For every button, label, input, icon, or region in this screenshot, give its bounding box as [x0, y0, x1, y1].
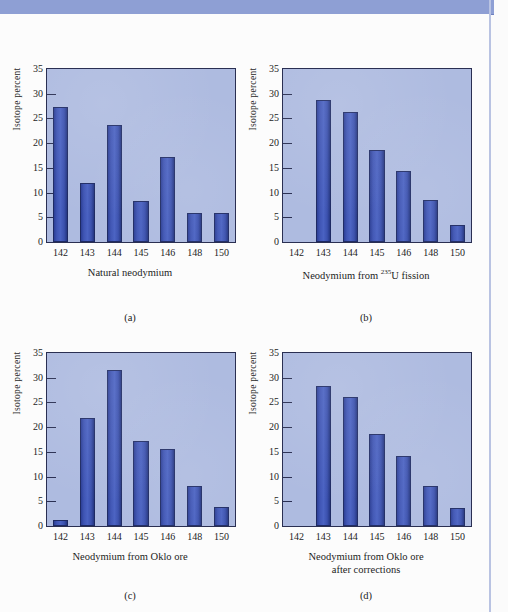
- bar-146: [396, 456, 411, 526]
- bar-series-d: [283, 353, 471, 526]
- x-tick-label-145: 145: [134, 532, 149, 542]
- y-tick-label: 0: [38, 237, 43, 247]
- chart-b: Isotope percent 05101520253035 142143144…: [250, 60, 482, 312]
- bar-145: [369, 434, 384, 526]
- x-tick-label-145: 145: [370, 248, 385, 258]
- y-tick-label: 10: [33, 188, 43, 198]
- chart-a: Isotope percent 05101520253035 142143144…: [14, 60, 246, 312]
- y-tick-label: 5: [38, 496, 43, 506]
- y-tick-label: 20: [269, 138, 279, 148]
- x-tick-label-142: 142: [53, 248, 68, 258]
- y-tick-label: 30: [269, 373, 279, 383]
- x-tick-label-142: 142: [289, 248, 304, 258]
- y-tick-label: 30: [33, 373, 43, 383]
- bar-144: [107, 370, 122, 526]
- bar-143: [316, 386, 331, 526]
- bar-145: [133, 441, 148, 526]
- x-tick-label-150: 150: [214, 532, 229, 542]
- x-tick-label-146: 146: [160, 532, 175, 542]
- x-tick-label-148: 148: [423, 532, 438, 542]
- page-right-rule: [489, 0, 491, 612]
- panel-letter-b: (b): [250, 312, 482, 323]
- x-tick-label-143: 143: [80, 532, 95, 542]
- y-tick-label: 0: [274, 237, 279, 247]
- x-tick-label-142: 142: [53, 532, 68, 542]
- bar-148: [187, 486, 202, 526]
- bar-142: [53, 520, 68, 526]
- bar-series-c: [47, 353, 235, 526]
- x-axis-tick-labels-c: 142143144145146148150: [46, 532, 236, 546]
- bar-148: [423, 200, 438, 242]
- plot-area-d: 05101520253035: [282, 352, 472, 527]
- x-tick-label-150: 150: [450, 248, 465, 258]
- caption-line-2: after corrections: [250, 563, 482, 576]
- y-tick-label: 35: [33, 348, 43, 358]
- x-tick-label-142: 142: [289, 532, 304, 542]
- x-tick-label-144: 144: [343, 248, 358, 258]
- bar-145: [133, 201, 148, 242]
- bar-series-a: [47, 69, 235, 242]
- x-axis-title-c: Neodymium from Oklo ore: [14, 550, 246, 563]
- bar-146: [160, 449, 175, 526]
- bar-146: [396, 171, 411, 242]
- y-tick-label: 15: [33, 447, 43, 457]
- chart-c: Isotope percent 05101520253035 142143144…: [14, 344, 246, 596]
- y-tick-label: 35: [269, 348, 279, 358]
- bar-150: [214, 507, 229, 526]
- bar-150: [214, 213, 229, 242]
- y-tick-label: 0: [38, 521, 43, 531]
- bar-150: [450, 225, 465, 242]
- bar-143: [316, 100, 331, 242]
- bar-144: [343, 397, 358, 526]
- plot-area-b: 05101520253035: [282, 68, 472, 243]
- x-tick-label-146: 146: [396, 248, 411, 258]
- bar-145: [369, 150, 384, 242]
- x-tick-label-143: 143: [316, 248, 331, 258]
- x-axis-tick-labels-b: 142143144145146148150: [282, 248, 472, 262]
- y-tick-label: 25: [33, 113, 43, 123]
- caption-superscript: 235: [381, 268, 392, 276]
- chart-panel-a: Isotope percent 05101520253035 142143144…: [14, 60, 246, 312]
- x-axis-tick-labels-a: 142143144145146148150: [46, 248, 236, 262]
- y-tick-label: 5: [38, 212, 43, 222]
- figure-isotope-percent-panels: Isotope percent 05101520253035 142143144…: [0, 14, 489, 612]
- bar-148: [423, 486, 438, 526]
- y-tick-label: 25: [269, 397, 279, 407]
- x-axis-title-d: Neodymium from Oklo oreafter corrections: [250, 550, 482, 576]
- page-top-banner: [0, 0, 494, 15]
- y-axis-label-a: Isotope percent: [12, 0, 26, 106]
- x-tick-label-143: 143: [80, 248, 95, 258]
- x-tick-label-144: 144: [107, 532, 122, 542]
- bar-series-b: [283, 69, 471, 242]
- chart-d: Isotope percent 05101520253035 142143144…: [250, 344, 482, 596]
- bar-150: [450, 508, 465, 526]
- panel-letter-a: (a): [14, 312, 246, 323]
- x-tick-label-144: 144: [107, 248, 122, 258]
- x-tick-label-144: 144: [343, 532, 358, 542]
- plot-area-c: 05101520253035: [46, 352, 236, 527]
- y-tick-label: 25: [33, 397, 43, 407]
- y-tick-label: 30: [269, 89, 279, 99]
- y-axis-label-d: Isotope percent: [248, 260, 262, 390]
- x-tick-label-150: 150: [450, 532, 465, 542]
- x-axis-tick-labels-d: 142143144145146148150: [282, 532, 472, 546]
- chart-panel-d: Isotope percent 05101520253035 142143144…: [250, 344, 482, 596]
- y-axis-label-b: Isotope percent: [248, 0, 262, 106]
- bar-142: [53, 107, 68, 242]
- x-tick-label-143: 143: [316, 532, 331, 542]
- y-tick-label: 10: [269, 472, 279, 482]
- x-tick-label-148: 148: [187, 532, 202, 542]
- x-tick-label-150: 150: [214, 248, 229, 258]
- y-tick-label: 5: [274, 496, 279, 506]
- x-tick-label-148: 148: [423, 248, 438, 258]
- x-tick-label-145: 145: [134, 248, 149, 258]
- y-tick-label: 10: [269, 188, 279, 198]
- y-tick-label: 0: [274, 521, 279, 531]
- bar-146: [160, 157, 175, 242]
- x-axis-title-b: Neodymium from 235U fission: [250, 266, 482, 282]
- chart-panel-b: Isotope percent 05101520253035 142143144…: [250, 60, 482, 312]
- y-tick-label: 10: [33, 472, 43, 482]
- chart-panel-c: Isotope percent 05101520253035 142143144…: [14, 344, 246, 596]
- bar-143: [80, 418, 95, 526]
- bar-143: [80, 183, 95, 242]
